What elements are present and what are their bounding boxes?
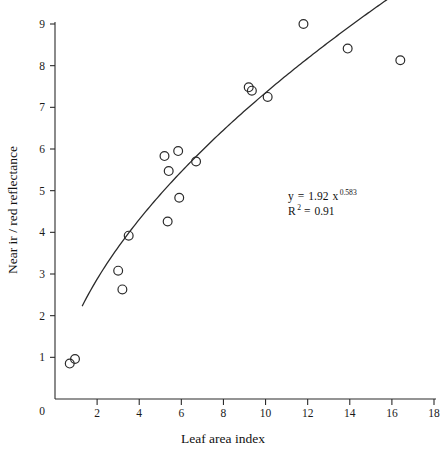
y-axis-ticks [50, 24, 55, 357]
y-tick-label-7: 7 [39, 101, 45, 113]
x-tick-label-16: 16 [386, 407, 398, 419]
data-point [118, 285, 127, 294]
x-tick-label-14: 14 [344, 407, 356, 419]
data-point [299, 20, 308, 29]
r-value: 0.91 [314, 205, 334, 217]
equation-lhs: y [288, 190, 294, 203]
data-point [65, 359, 74, 368]
data-point [396, 56, 405, 65]
y-tick-label-6: 6 [39, 143, 45, 155]
x-axis-title: Leaf area index [181, 431, 265, 446]
y-tick-label-8: 8 [39, 60, 45, 72]
equation-coefficient: 1.92 [308, 190, 328, 202]
y-axis-tick-labels: 0123456789 [39, 18, 45, 417]
fit-curve [82, 0, 408, 306]
r-symbol: R [288, 205, 296, 217]
data-point [71, 355, 80, 364]
y-tick-label-0: 0 [39, 405, 45, 417]
x-tick-label-10: 10 [260, 407, 272, 419]
r-equals: = [304, 205, 311, 217]
equation-equals: = [298, 190, 305, 202]
x-tick-label-18: 18 [428, 407, 440, 419]
x-axis-tick-labels: 24681012141618 [94, 407, 440, 419]
data-point [192, 157, 201, 166]
y-tick-label-1: 1 [39, 351, 45, 363]
data-point [114, 266, 123, 275]
y-axis-title: Near ir / red reflectance [5, 146, 20, 274]
data-point [175, 193, 184, 202]
data-point [174, 147, 183, 156]
equation-exponent: 0.583 [340, 188, 357, 197]
y-tick-label-9: 9 [39, 18, 45, 30]
y-tick-label-5: 5 [39, 185, 45, 197]
x-tick-label-8: 8 [221, 407, 227, 419]
plot-canvas: 0123456789 24681012141618 Leaf area inde… [0, 0, 446, 452]
axes [55, 22, 436, 399]
data-point [160, 152, 169, 161]
x-tick-label-6: 6 [178, 407, 184, 419]
x-tick-label-4: 4 [136, 407, 142, 419]
x-tick-label-2: 2 [94, 407, 100, 419]
y-tick-label-2: 2 [39, 310, 45, 322]
data-point [163, 217, 172, 226]
scatter-plot-figure: 0123456789 24681012141618 Leaf area inde… [0, 0, 446, 452]
equation-variable: x [332, 190, 338, 202]
fit-annotation: y=1.92x0.583 R2=0.91 [288, 188, 357, 217]
x-tick-label-12: 12 [302, 407, 314, 419]
data-point [263, 93, 272, 102]
r-exponent: 2 [297, 203, 301, 212]
y-tick-label-3: 3 [39, 268, 45, 280]
x-axis-ticks [97, 399, 434, 405]
data-point [164, 167, 173, 176]
equation-line: y=1.92x0.583 [288, 188, 357, 203]
data-point [343, 44, 352, 53]
y-tick-label-4: 4 [39, 226, 45, 238]
r-squared-line: R2=0.91 [288, 203, 335, 217]
